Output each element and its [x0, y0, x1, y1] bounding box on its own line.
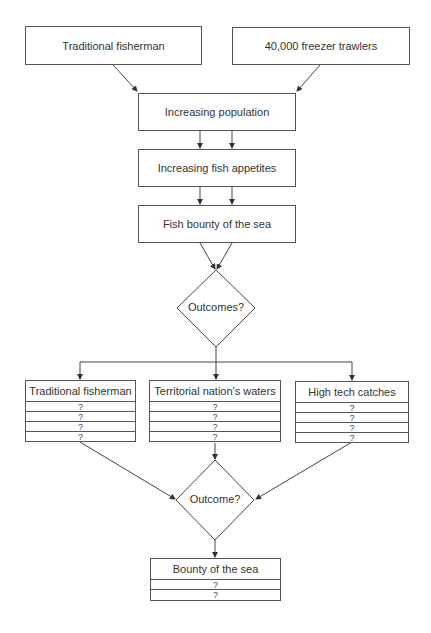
table-title: Bounty of the sea [151, 559, 280, 580]
table-row: ? [296, 413, 408, 423]
source-label: 40,000 freezer trawlers [265, 40, 378, 52]
source-traditional-fisherman: Traditional fisherman [25, 26, 202, 65]
process-label: Fish bounty of the sea [163, 218, 271, 230]
table-row: ? [296, 433, 408, 442]
process-increasing-fish-appetites: Increasing fish appetites [138, 149, 296, 187]
table-row: ? [296, 403, 408, 413]
arrow-hightech-to-outcome [256, 442, 352, 499]
table-title: Traditional fisherman [26, 381, 135, 402]
arrow-trawlers-to-population [297, 65, 320, 91]
table-title: High tech catches [296, 382, 408, 403]
outcome-table-territorial-waters: Territorial nation's waters ? ? ? ? [149, 380, 281, 442]
table-row: ? [151, 580, 280, 590]
table-row: ? [26, 432, 135, 441]
final-table-bounty-of-the-sea: Bounty of the sea ? ? [150, 558, 281, 601]
source-label: Traditional fisherman [62, 40, 164, 52]
table-row: ? [150, 432, 280, 441]
table-row: ? [296, 423, 408, 433]
arrow-fisherman-to-outcome [80, 442, 175, 499]
process-label: Increasing fish appetites [158, 162, 277, 174]
table-row: ? [26, 412, 135, 422]
process-increasing-population: Increasing population [138, 93, 296, 131]
table-title: Territorial nation's waters [150, 381, 280, 402]
arrow-fisherman-to-population [113, 65, 137, 91]
outcome-table-high-tech-catches: High tech catches ? ? ? ? [295, 381, 409, 443]
table-row: ? [150, 402, 280, 412]
process-fish-bounty: Fish bounty of the sea [138, 205, 296, 243]
outcome-table-traditional-fisherman: Traditional fisherman ? ? ? ? [25, 380, 136, 442]
table-row: ? [151, 590, 280, 599]
table-row: ? [150, 422, 280, 432]
process-label: Increasing population [165, 106, 270, 118]
arrow-bounty-to-outcomes-2 [217, 243, 232, 269]
table-row: ? [150, 412, 280, 422]
table-row: ? [26, 422, 135, 432]
table-row: ? [26, 402, 135, 412]
decision-outcome-label: Outcome? [175, 493, 255, 505]
source-freezer-trawlers: 40,000 freezer trawlers [232, 27, 410, 65]
decision-outcomes-label: Outcomes? [176, 301, 256, 313]
arrow-bounty-to-outcomes-1 [200, 243, 215, 269]
